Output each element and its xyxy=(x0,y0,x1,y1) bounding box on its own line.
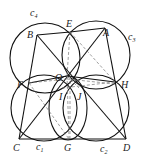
label-B: B xyxy=(27,29,33,40)
dashed-E-O xyxy=(67,32,70,76)
label-c3: c3 xyxy=(128,31,135,43)
label-D: D xyxy=(122,142,131,153)
label-A: A xyxy=(102,27,110,38)
label-c1: c1 xyxy=(36,141,43,153)
segment-A-C xyxy=(19,28,105,139)
label-F: F xyxy=(16,79,24,90)
label-O: O xyxy=(55,72,62,83)
label-c2: c2 xyxy=(100,143,107,155)
label-G: G xyxy=(64,142,71,153)
segment-B-D xyxy=(37,35,126,139)
label-C: C xyxy=(13,142,20,153)
label-E: E xyxy=(65,18,72,29)
label-J: J xyxy=(77,91,82,102)
label-c4: c4 xyxy=(30,7,37,19)
label-H: H xyxy=(120,79,129,90)
dashed-E-H xyxy=(70,32,115,82)
geometry-diagram: A B E O F H I J C G D c4 c3 c1 c2 xyxy=(0,0,142,168)
label-I: I xyxy=(58,91,63,102)
